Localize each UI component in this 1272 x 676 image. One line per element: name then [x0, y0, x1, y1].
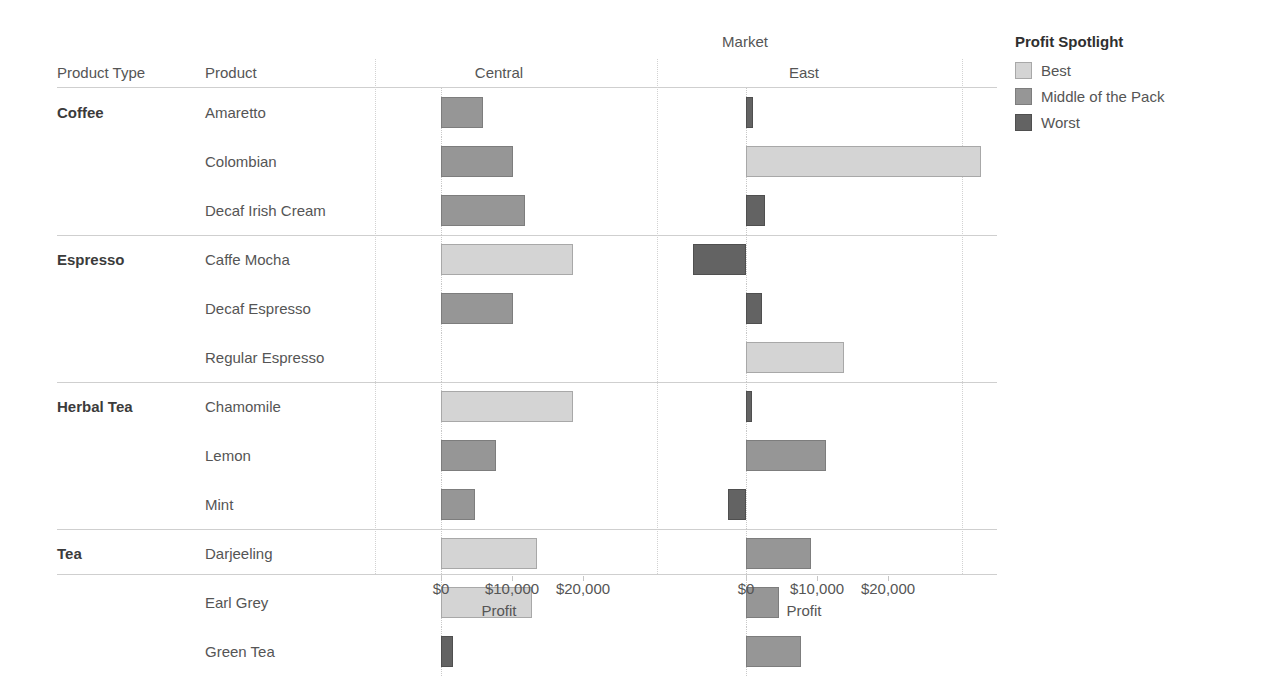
bar-cell-east[interactable]	[680, 333, 928, 382]
column-header-product-type[interactable]: Product Type	[57, 59, 145, 87]
legend: Profit Spotlight BestMiddle of the PackW…	[1015, 33, 1265, 135]
bar[interactable]	[441, 97, 483, 128]
axis-tick-label: $0	[433, 580, 450, 597]
bar[interactable]	[728, 489, 746, 520]
bar[interactable]	[746, 391, 752, 422]
bar-cell-east[interactable]	[680, 382, 928, 431]
legend-swatch-worst	[1015, 114, 1032, 131]
row-product-name[interactable]: Green Tea	[205, 627, 275, 676]
bar[interactable]	[693, 244, 746, 275]
bar-cell-east[interactable]	[680, 88, 928, 137]
table-row[interactable]: EspressoCaffe Mocha	[57, 235, 997, 284]
axis-tick-label: $0	[738, 580, 755, 597]
bar[interactable]	[441, 636, 453, 667]
row-product-name[interactable]: Mint	[205, 480, 233, 529]
bar-cell-central[interactable]	[375, 431, 623, 480]
bar-cell-central[interactable]	[375, 627, 623, 676]
legend-swatch-mid	[1015, 88, 1032, 105]
legend-item[interactable]: Middle of the Pack	[1015, 83, 1265, 109]
panel-header-central[interactable]: Central	[375, 59, 623, 87]
row-product-type[interactable]: Tea	[57, 529, 82, 578]
bar-cell-east[interactable]	[680, 627, 928, 676]
bar[interactable]	[746, 538, 811, 569]
bar[interactable]	[746, 195, 765, 226]
table-row[interactable]: Lemon	[57, 431, 997, 480]
bar[interactable]	[746, 636, 801, 667]
zero-line	[746, 480, 747, 529]
table-row[interactable]: Mint	[57, 480, 997, 529]
bar-cell-central[interactable]	[375, 382, 623, 431]
x-axis-central: Profit $0$10,000$20,000	[375, 576, 623, 622]
bar-cell-central[interactable]	[375, 235, 623, 284]
bar[interactable]	[441, 293, 513, 324]
table-row[interactable]: CoffeeAmaretto	[57, 88, 997, 137]
x-axis-title-central: Profit	[375, 602, 623, 619]
market-band-header: Market	[435, 33, 1055, 57]
visualization-area: Market Product Type Product Central East…	[57, 33, 997, 618]
bar-cell-east[interactable]	[680, 480, 928, 529]
bar-cell-central[interactable]	[375, 480, 623, 529]
bar[interactable]	[441, 244, 573, 275]
bar-cell-east[interactable]	[680, 529, 928, 578]
bar[interactable]	[441, 538, 537, 569]
table-row[interactable]: Herbal TeaChamomile	[57, 382, 997, 431]
legend-item-label: Middle of the Pack	[1041, 88, 1164, 105]
zero-line	[746, 235, 747, 284]
table-row[interactable]: TeaDarjeeling	[57, 529, 997, 578]
table-row[interactable]: Decaf Irish Cream	[57, 186, 997, 235]
row-product-name[interactable]: Caffe Mocha	[205, 235, 290, 284]
table-row[interactable]: Decaf Espresso	[57, 284, 997, 333]
x-axis-title-east: Profit	[680, 602, 928, 619]
bar[interactable]	[746, 342, 844, 373]
legend-title: Profit Spotlight	[1015, 33, 1265, 50]
panel-header-east[interactable]: East	[680, 59, 928, 87]
bar[interactable]	[746, 440, 826, 471]
bar-cell-central[interactable]	[375, 529, 623, 578]
row-product-name[interactable]: Decaf Irish Cream	[205, 186, 326, 235]
bar[interactable]	[746, 293, 762, 324]
row-product-type[interactable]: Espresso	[57, 235, 125, 284]
legend-swatch-best	[1015, 62, 1032, 79]
zero-line	[441, 333, 442, 382]
bar[interactable]	[441, 195, 525, 226]
bar-cell-central[interactable]	[375, 284, 623, 333]
legend-item-label: Worst	[1041, 114, 1080, 131]
legend-item[interactable]: Worst	[1015, 109, 1265, 135]
table-row[interactable]: Green Tea	[57, 627, 997, 676]
axis-tick-label: $20,000	[861, 580, 915, 597]
row-product-name[interactable]: Colombian	[205, 137, 277, 186]
bar-cell-east[interactable]	[680, 137, 928, 186]
legend-item[interactable]: Best	[1015, 57, 1265, 83]
row-product-name[interactable]: Decaf Espresso	[205, 284, 311, 333]
axis-tick-label: $20,000	[556, 580, 610, 597]
bar-cell-east[interactable]	[680, 186, 928, 235]
bar[interactable]	[746, 146, 981, 177]
bar[interactable]	[441, 146, 513, 177]
row-product-type[interactable]: Coffee	[57, 88, 104, 137]
legend-item-label: Best	[1041, 62, 1071, 79]
column-header-product[interactable]: Product	[205, 59, 257, 87]
bar-cell-central[interactable]	[375, 88, 623, 137]
row-product-name[interactable]: Darjeeling	[205, 529, 273, 578]
bar-cell-east[interactable]	[680, 235, 928, 284]
legend-items: BestMiddle of the PackWorst	[1015, 57, 1265, 135]
row-product-name[interactable]: Amaretto	[205, 88, 266, 137]
bar-cell-central[interactable]	[375, 333, 623, 382]
table-row[interactable]: Regular Espresso	[57, 333, 997, 382]
bar[interactable]	[746, 97, 753, 128]
bar-cell-east[interactable]	[680, 431, 928, 480]
bar[interactable]	[441, 440, 496, 471]
table-row[interactable]: Colombian	[57, 137, 997, 186]
row-product-name[interactable]: Chamomile	[205, 382, 281, 431]
row-product-type[interactable]: Herbal Tea	[57, 382, 133, 431]
bar-cell-east[interactable]	[680, 284, 928, 333]
axis-tick-label: $10,000	[485, 580, 539, 597]
bar-cell-central[interactable]	[375, 186, 623, 235]
bar-cell-central[interactable]	[375, 137, 623, 186]
row-product-name[interactable]: Regular Espresso	[205, 333, 324, 382]
bar[interactable]	[441, 391, 573, 422]
row-product-name[interactable]: Lemon	[205, 431, 251, 480]
row-product-name[interactable]: Earl Grey	[205, 578, 268, 627]
bar[interactable]	[441, 489, 475, 520]
